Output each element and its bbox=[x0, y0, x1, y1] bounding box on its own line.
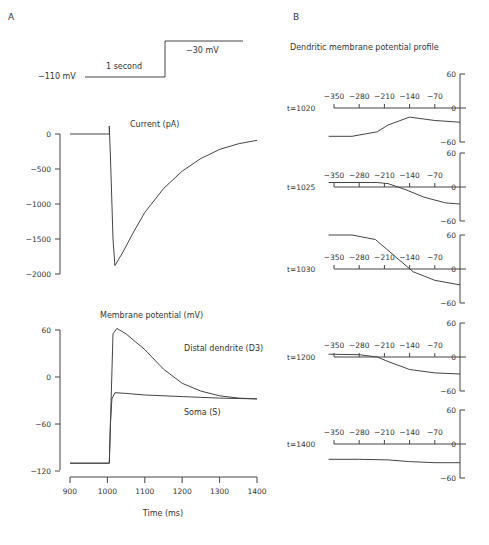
x-tick-label: −350 bbox=[324, 92, 345, 101]
protocol-low-label: −110 mV bbox=[38, 72, 76, 81]
y-tick-label: −1500 bbox=[26, 235, 52, 244]
profile-panel: t=1400600−60−350−280−210−140−70 bbox=[287, 406, 466, 483]
y-tick-label: −60 bbox=[440, 138, 456, 147]
x-tick-label: 1000 bbox=[98, 487, 117, 496]
x-tick-label: −350 bbox=[324, 341, 345, 350]
y-tick-label: 60 bbox=[446, 149, 456, 158]
y-tick-label: −1000 bbox=[26, 200, 52, 209]
x-tick-label: −350 bbox=[324, 253, 345, 262]
membrane-title: Membrane potential (mV) bbox=[100, 311, 203, 320]
panel-label-b: B bbox=[293, 12, 299, 22]
profile-trace bbox=[329, 117, 460, 136]
x-tick-label: −350 bbox=[324, 428, 345, 437]
y-tick-label: −2000 bbox=[26, 270, 52, 279]
current-trace bbox=[70, 126, 257, 266]
profile-time-label: t=1200 bbox=[287, 353, 316, 362]
x-tick-label: 1400 bbox=[247, 487, 266, 496]
x-tick-label: −280 bbox=[349, 253, 370, 262]
x-tick-label: −210 bbox=[374, 428, 395, 437]
x-tick-label: −210 bbox=[374, 92, 395, 101]
profile-time-label: t=1400 bbox=[287, 440, 316, 449]
y-tick-label: 60 bbox=[446, 406, 456, 415]
x-tick-label: −280 bbox=[349, 341, 370, 350]
x-tick-label: 900 bbox=[63, 487, 78, 496]
profile-panel: t=1025600−60−350−280−210−140−70 bbox=[287, 149, 466, 226]
profile-time-label: t=1020 bbox=[287, 104, 316, 113]
y-tick-label: 60 bbox=[446, 231, 456, 240]
profile-trace bbox=[329, 459, 460, 462]
y-tick-label: 60 bbox=[446, 70, 456, 79]
membrane-potential-chart: Membrane potential (mV)600−60−1209001000… bbox=[30, 311, 266, 518]
voltage-protocol: −110 mV 1 second −30 mV bbox=[38, 41, 243, 81]
profile-time-label: t=1025 bbox=[287, 183, 316, 192]
x-tick-label: −70 bbox=[427, 92, 443, 101]
y-tick-label: −120 bbox=[30, 467, 51, 476]
x-tick-label: −70 bbox=[427, 253, 443, 262]
profile-trace bbox=[329, 183, 460, 205]
x-tick-label: −70 bbox=[427, 428, 443, 437]
y-tick-label: 0 bbox=[46, 130, 51, 139]
dendritic-profile-charts: t=1020600−60−350−280−210−140−70t=1025600… bbox=[287, 70, 466, 483]
x-tick-label: −140 bbox=[399, 341, 420, 350]
x-tick-label: −210 bbox=[374, 171, 395, 180]
dendrite-annotation: Distal dendrite (D3) bbox=[184, 344, 263, 353]
x-tick-label: −70 bbox=[427, 341, 443, 350]
x-tick-label: −280 bbox=[349, 171, 370, 180]
y-tick-label: −60 bbox=[440, 217, 456, 226]
y-tick-label: 60 bbox=[41, 326, 51, 335]
soma-trace bbox=[70, 393, 257, 464]
y-tick-label: 0 bbox=[46, 373, 51, 382]
profile-panel: t=1020600−60−350−280−210−140−70 bbox=[287, 70, 466, 147]
x-tick-label: −210 bbox=[374, 253, 395, 262]
x-tick-label: −210 bbox=[374, 341, 395, 350]
x-tick-label: −280 bbox=[349, 428, 370, 437]
x-tick-label: −140 bbox=[399, 171, 420, 180]
current-chart: Current (pA)0−500−1000−1500−2000 bbox=[26, 120, 257, 279]
figure: A B −110 mV 1 second −30 mV Current (pA)… bbox=[0, 0, 489, 545]
x-axis-label: Time (ms) bbox=[142, 509, 183, 518]
current-title: Current (pA) bbox=[130, 120, 179, 129]
y-tick-label: 60 bbox=[446, 319, 456, 328]
x-tick-label: −70 bbox=[427, 171, 443, 180]
x-tick-label: 1100 bbox=[135, 487, 154, 496]
profile-time-label: t=1030 bbox=[287, 265, 316, 274]
profile-title: Dendritic membrane potential profile bbox=[290, 43, 439, 52]
protocol-duration-label: 1 second bbox=[106, 62, 142, 71]
y-tick-label: −500 bbox=[30, 165, 51, 174]
x-tick-label: 1200 bbox=[173, 487, 192, 496]
x-tick-label: −280 bbox=[349, 92, 370, 101]
y-tick-label: −60 bbox=[440, 474, 456, 483]
x-tick-label: −140 bbox=[399, 253, 420, 262]
x-tick-label: −140 bbox=[399, 92, 420, 101]
y-tick-label: −60 bbox=[440, 387, 456, 396]
protocol-high-label: −30 mV bbox=[186, 46, 219, 55]
x-tick-label: −350 bbox=[324, 171, 345, 180]
y-tick-label: −60 bbox=[440, 299, 456, 308]
soma-annotation: Soma (S) bbox=[184, 408, 221, 417]
x-tick-label: −140 bbox=[399, 428, 420, 437]
profile-panel: t=1200600−60−350−280−210−140−70 bbox=[287, 319, 466, 396]
profile-panel: t=1030600−60−350−280−210−140−70 bbox=[287, 231, 466, 308]
x-tick-label: 1300 bbox=[210, 487, 229, 496]
panel-label-a: A bbox=[8, 12, 15, 22]
y-tick-label: −60 bbox=[35, 420, 51, 429]
